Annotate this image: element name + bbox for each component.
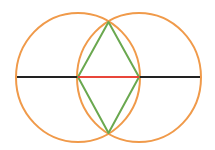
vesica-piscis-diagram (0, 0, 215, 150)
